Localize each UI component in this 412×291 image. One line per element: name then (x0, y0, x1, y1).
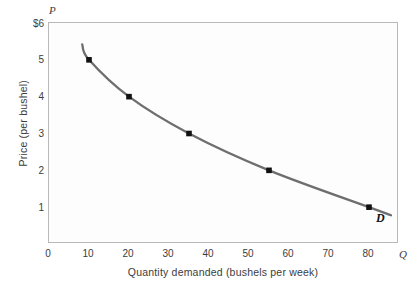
data-point-marker (186, 131, 192, 137)
x-tick-label: 20 (113, 249, 143, 259)
quantity-axis-symbol: Q (399, 249, 407, 260)
x-tick-label: 80 (353, 249, 383, 259)
data-point-marker (126, 94, 132, 100)
x-axis-title: Quantity demanded (bushels per week) (48, 267, 398, 278)
data-point-marker (266, 168, 272, 174)
demand-curve-figure: P $6 5 4 3 2 1 D 0 10 20 30 40 50 60 70 … (0, 0, 412, 291)
price-axis-symbol: P (49, 5, 56, 16)
x-tick-label: 40 (193, 249, 223, 259)
x-tick-label: 70 (313, 249, 343, 259)
x-tick-label: 50 (233, 249, 263, 259)
plot-area (48, 22, 398, 243)
y-tick-label: $6 (2, 19, 48, 29)
y-axis-title: Price (per bushel) (18, 48, 29, 198)
data-point-marker (366, 204, 372, 210)
x-tick-label: 30 (153, 249, 183, 259)
demand-curve-label: D (376, 212, 385, 224)
demand-curve-line (82, 44, 391, 215)
x-tick-label: 10 (73, 249, 103, 259)
data-point-marker (86, 57, 92, 63)
y-tick-label: 1 (2, 203, 48, 213)
x-tick-label: 0 (33, 249, 63, 259)
demand-curve-plot (49, 23, 399, 244)
x-tick-label: 60 (273, 249, 303, 259)
